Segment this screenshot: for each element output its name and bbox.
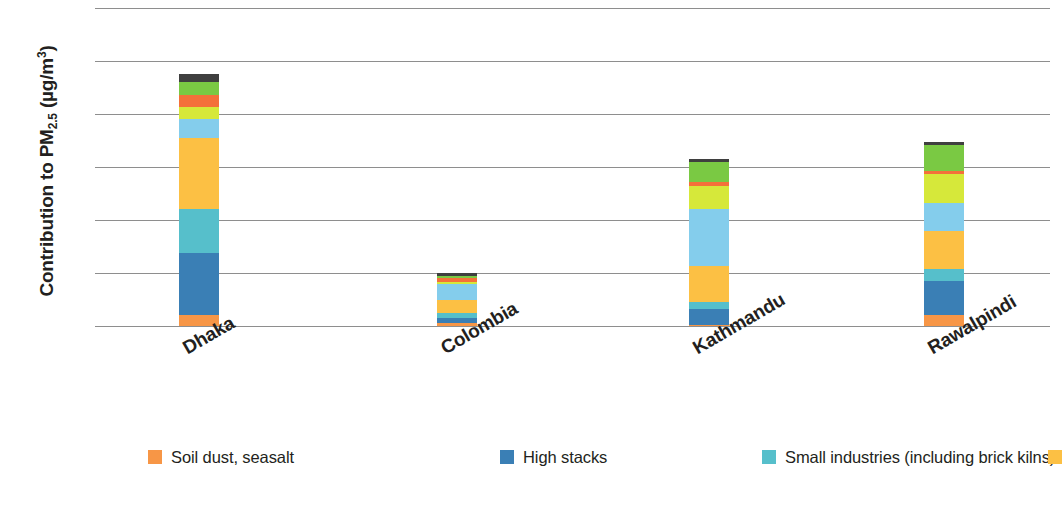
bar-segment <box>179 209 219 253</box>
gridline <box>95 8 1050 9</box>
bar-segment <box>689 162 729 182</box>
y-axis-title-superscript: 3 <box>35 52 49 58</box>
bar-dhaka <box>179 74 219 326</box>
bar-segment <box>924 231 964 269</box>
legend-swatch-icon <box>500 450 514 464</box>
y-axis-title-unit-open: (µg/m <box>36 58 57 113</box>
bar-segment <box>689 209 729 266</box>
legend-item-label: Small industries (including brick kilns) <box>785 449 1055 466</box>
stacked-bar-chart: Contribution to PM2.5 (µg/m3) 1201008060… <box>0 0 1064 522</box>
gridline <box>95 167 1050 168</box>
bar-rawalpindi <box>924 142 964 326</box>
bar-colombia <box>437 273 477 326</box>
bar-segment <box>179 138 219 210</box>
bar-segment <box>179 253 219 315</box>
bar-segment <box>924 281 964 315</box>
gridline <box>95 273 1050 274</box>
bar-segment <box>179 119 219 138</box>
legend-item[interactable]: Soil dust, seasalt <box>148 444 500 470</box>
chart-legend: Soil dust, seasaltHigh stacksSmall indus… <box>148 444 1048 470</box>
bar-segment <box>437 284 477 300</box>
gridline <box>95 114 1050 115</box>
legend-swatch-icon <box>148 450 162 464</box>
bar-segment <box>179 82 219 95</box>
bar-segment <box>437 300 477 313</box>
y-axis-title-subscript: 2.5 <box>46 113 60 129</box>
bar-segment <box>924 269 964 281</box>
bar-segment <box>689 302 729 309</box>
bar-segment <box>689 266 729 302</box>
legend-item-label: Soil dust, seasalt <box>171 449 294 466</box>
bar-segment <box>179 95 219 107</box>
legend-item-label: High stacks <box>523 449 607 466</box>
legend-item[interactable]: Residential and commercial <box>1048 444 1064 470</box>
legend-swatch-icon <box>1048 450 1062 464</box>
plot-area: 120100806040200 <box>95 8 1050 326</box>
y-axis-title-unit-close: ) <box>36 45 57 51</box>
gridline <box>95 220 1050 221</box>
bar-segment <box>924 203 964 231</box>
bar-segment <box>689 186 729 210</box>
bar-segment <box>924 145 964 172</box>
legend-item[interactable]: Small industries (including brick kilns) <box>762 444 1048 470</box>
bar-kathmandu <box>689 159 729 326</box>
legend-swatch-icon <box>762 450 776 464</box>
gridline <box>95 61 1050 62</box>
gridline <box>95 326 1050 327</box>
y-axis-title: Contribution to PM2.5 (µg/m3) <box>36 6 58 336</box>
legend-item[interactable]: High stacks <box>500 444 762 470</box>
bar-segment <box>179 107 219 119</box>
bar-segment <box>924 174 964 203</box>
bar-segment <box>179 74 219 82</box>
y-axis-title-prefix: Contribution to PM <box>36 129 57 296</box>
